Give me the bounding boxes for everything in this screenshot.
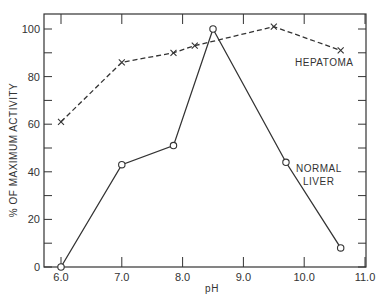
circle-marker (58, 264, 64, 270)
series-line-hepatoma (61, 27, 341, 122)
x-marker (119, 59, 125, 65)
x-tick-label: 11.0 (355, 271, 376, 283)
x-marker (271, 24, 277, 30)
y-tick-label: 80 (28, 71, 40, 83)
x-tick-label: 8.0 (175, 271, 190, 283)
x-tick-label: 6.0 (53, 271, 68, 283)
y-tick-label: 20 (28, 213, 40, 225)
y-tick-label: 100 (22, 23, 40, 35)
x-tick-label: 9.0 (236, 271, 251, 283)
x-marker (58, 119, 64, 125)
circle-marker (337, 245, 343, 251)
x-axis-title: pH (205, 283, 219, 294)
circle-marker (283, 159, 289, 165)
circle-marker (170, 142, 176, 148)
label-hepatoma: HEPATOMA (295, 57, 353, 68)
x-tick-label: 10.0 (293, 271, 314, 283)
y-tick-label: 0 (34, 261, 40, 273)
chart: 6.07.08.09.010.011.0020406080100 HEPATOM… (0, 0, 379, 300)
x-tick-label: 7.0 (114, 271, 129, 283)
label-normal-line2: LIVER (303, 176, 334, 187)
y-axis-title: % OF MAXIMUM ACTIVITY (8, 83, 19, 217)
axis-ticks: 6.07.08.09.010.011.0020406080100 (22, 14, 376, 283)
circle-marker (210, 26, 216, 32)
y-tick-label: 40 (28, 166, 40, 178)
label-normal-line1: NORMAL (296, 163, 342, 174)
circle-marker (119, 161, 125, 167)
y-tick-label: 60 (28, 118, 40, 130)
x-marker (338, 47, 344, 53)
x-marker (170, 50, 176, 56)
